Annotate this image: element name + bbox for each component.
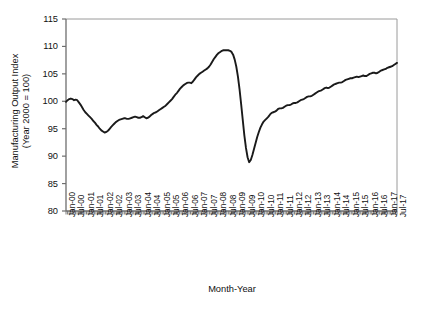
y-tick-label: 80 <box>32 206 58 216</box>
x-tick-label: Jan-00 <box>69 192 77 217</box>
x-tick-label: Jul-14 <box>343 195 351 217</box>
x-tick-label: Jan-03 <box>126 192 134 217</box>
x-tick-label: Jul-17 <box>400 195 408 217</box>
x-tick-label: Jul-11 <box>287 195 295 217</box>
y-axis-title: Manufacturing Output Index (Year 2000 = … <box>4 0 38 222</box>
x-tick-label: Jul-05 <box>173 195 181 217</box>
x-tick-label: Jan-01 <box>88 192 96 217</box>
x-tick-label: Jul-08 <box>230 195 238 217</box>
chart-figure: Manufacturing Output Index (Year 2000 = … <box>0 0 426 310</box>
x-tick-label: Jul-03 <box>135 195 143 217</box>
x-tick-label: Jul-00 <box>78 195 86 217</box>
x-tick-label: Jul-02 <box>116 195 124 217</box>
x-tick-label: Jan-04 <box>145 192 153 217</box>
y-tick-label: 115 <box>32 14 58 24</box>
y-tick-label: 100 <box>32 96 58 106</box>
y-axis-title-line2: (Year 2000 = 100) <box>21 54 32 169</box>
x-tick-label: Jul-15 <box>362 195 370 217</box>
y-tick-label: 105 <box>32 69 58 79</box>
x-tick-label: Jul-01 <box>97 195 105 217</box>
x-tick-label: Jan-05 <box>164 192 172 217</box>
x-tick-label: Jul-13 <box>324 195 332 217</box>
x-tick-label: Jul-16 <box>381 195 389 217</box>
x-tick-label: Jul-06 <box>192 195 200 217</box>
x-tick-label: Jan-07 <box>201 192 209 217</box>
x-tick-label: Jan-14 <box>334 192 342 217</box>
x-tick-label: Jan-11 <box>277 193 285 217</box>
x-tick-label: Jul-07 <box>211 195 219 217</box>
x-tick-label: Jan-02 <box>107 192 115 217</box>
y-tick-label: 95 <box>32 124 58 134</box>
x-tick-label: Jan-10 <box>258 192 266 217</box>
x-axis-title: Month-Year <box>66 284 398 294</box>
x-tick-label: Jul-09 <box>249 195 257 217</box>
y-tick-label: 110 <box>32 41 58 51</box>
x-tick-label: Jan-16 <box>372 192 380 217</box>
x-tick-label: Jan-08 <box>220 192 228 217</box>
x-tick-label: Jan-06 <box>182 192 190 217</box>
y-tick-label: 90 <box>32 151 58 161</box>
y-axis-title-line1: Manufacturing Output Index <box>10 54 21 169</box>
x-tick-label: Jan-15 <box>353 192 361 217</box>
x-tick-label: Jan-12 <box>296 192 304 217</box>
x-tick-label: Jul-10 <box>268 195 276 217</box>
y-tick-label: 85 <box>32 179 58 189</box>
x-tick-label: Jan-13 <box>315 192 323 217</box>
x-tick-label: Jan-09 <box>239 192 247 217</box>
x-tick-label: Jul-04 <box>154 195 162 217</box>
x-tick-label: Jan-17 <box>391 192 399 217</box>
plot-area <box>0 0 426 310</box>
x-tick-label: Jul-12 <box>305 195 313 217</box>
